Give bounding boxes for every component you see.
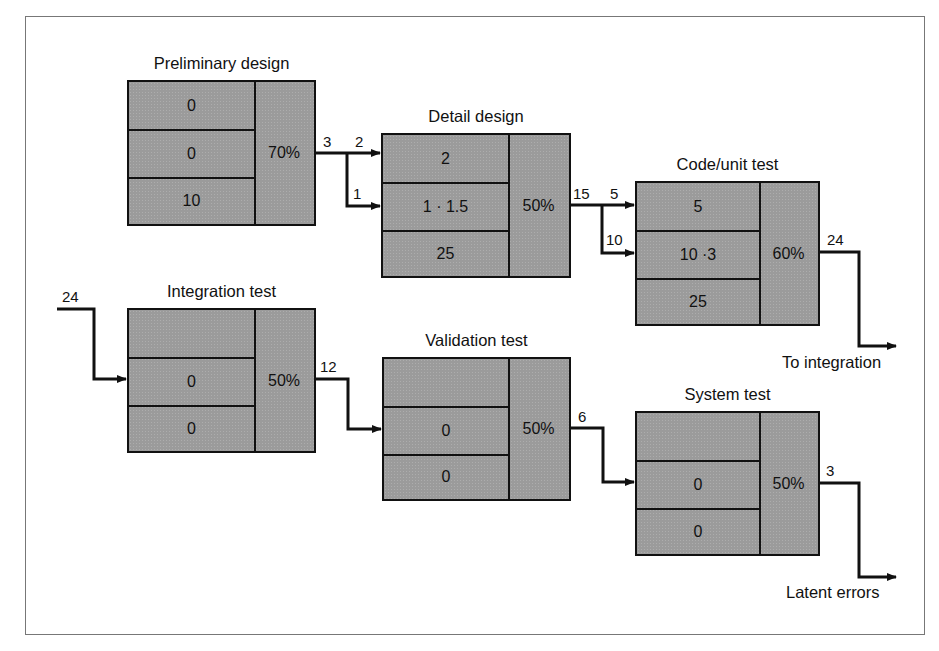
flow-label-detail-out: 15 bbox=[573, 185, 590, 202]
connector-lines bbox=[0, 0, 939, 651]
flow-label-code-out: 24 bbox=[827, 231, 844, 248]
flow-label-detail-in-top: 2 bbox=[355, 133, 363, 150]
flow-label-prelim-out: 3 bbox=[323, 133, 331, 150]
flow-validation-to-system bbox=[571, 428, 634, 482]
flow-label-integration-in: 24 bbox=[62, 288, 79, 305]
flow-label-code-in-mid: 10 bbox=[606, 231, 623, 248]
output-label-latent-errors: Latent errors bbox=[786, 583, 880, 602]
output-label-to-integration: To integration bbox=[782, 353, 881, 372]
flow-into-integration bbox=[57, 309, 126, 379]
flow-label-integration-out: 12 bbox=[320, 358, 337, 375]
flow-label-detail-in-mid: 1 bbox=[353, 185, 361, 202]
flow-code-out bbox=[820, 252, 896, 346]
flow-prelim-to-detail-mid bbox=[347, 153, 380, 206]
flow-integration-to-validation bbox=[316, 379, 381, 429]
flow-label-validation-out: 6 bbox=[578, 408, 586, 425]
flow-label-code-in-top: 5 bbox=[610, 185, 618, 202]
flow-system-out bbox=[820, 483, 896, 577]
flow-label-system-out: 3 bbox=[826, 462, 834, 479]
